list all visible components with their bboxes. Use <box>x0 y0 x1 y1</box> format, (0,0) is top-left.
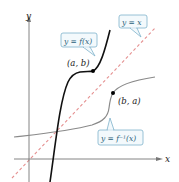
callout-inverse-label: y = f⁻¹(x) <box>100 134 136 143</box>
point-a-b-label: (a, b) <box>67 58 90 68</box>
point-a-b-marker <box>91 69 95 73</box>
x-axis-arrow-icon <box>156 157 163 161</box>
callout-f: y = f(x) <box>61 33 97 56</box>
point-b-a-label: (b, a) <box>118 96 141 106</box>
inverse-function-diagram: y x (a, b) (b, a) y = f(x) y = x y = f⁻¹… <box>0 0 179 182</box>
inverse-function-curve <box>14 77 155 137</box>
callout-identity-label: y = x <box>121 18 142 27</box>
point-b-a-marker <box>111 91 115 95</box>
y-axis-label: y <box>25 11 32 21</box>
callout-f-label: y = f(x) <box>63 37 92 46</box>
callout-inverse: y = f⁻¹(x) <box>98 118 143 145</box>
callout-identity: y = x <box>119 15 147 37</box>
x-axis-label: x <box>165 154 170 164</box>
